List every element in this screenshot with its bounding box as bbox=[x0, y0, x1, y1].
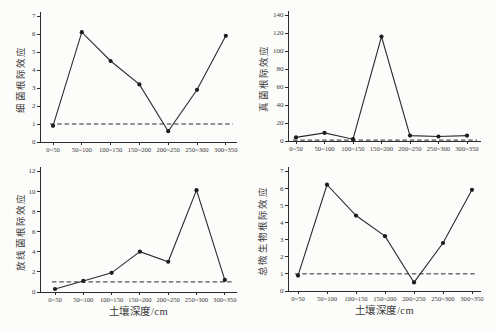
x-tick-label: 300~350 bbox=[214, 146, 238, 153]
x-tick-label: 0~50 bbox=[48, 296, 62, 303]
data-point-marker bbox=[322, 131, 326, 135]
y-tick-label: 6 bbox=[32, 30, 36, 38]
chart-panel-actinomycetes: 0246810120~5050~100100~150150~200200~250… bbox=[0, 166, 248, 331]
chart-panel-fungi: 0204060801001201400~5050~100100~150150~2… bbox=[248, 0, 496, 166]
data-series-line bbox=[55, 190, 225, 289]
data-point-marker bbox=[51, 124, 55, 128]
data-point-marker bbox=[224, 34, 228, 38]
y-tick-label: 4 bbox=[280, 219, 284, 227]
x-tick-label: 250~300 bbox=[185, 146, 209, 153]
y-tick-label: 0 bbox=[280, 137, 284, 145]
chart-actinomycete-rhizosphere-effect: 0246810120~5050~100100~150150~200200~250… bbox=[0, 166, 248, 331]
data-point-marker bbox=[137, 82, 141, 86]
y-axis-label: 细菌根际效应 bbox=[15, 45, 26, 112]
data-point-marker bbox=[383, 234, 387, 238]
x-tick-label: 250~300 bbox=[185, 296, 209, 303]
y-tick-label: 60 bbox=[277, 83, 285, 91]
axes bbox=[40, 167, 237, 292]
y-tick-label: 80 bbox=[277, 65, 285, 73]
data-point-marker bbox=[325, 183, 329, 187]
x-tick-label: 300~350 bbox=[455, 145, 479, 152]
y-axis-label: 放线菌根际效应 bbox=[15, 192, 26, 270]
y-tick-label: 120 bbox=[273, 29, 284, 37]
x-tick-label: 300~350 bbox=[213, 296, 237, 303]
x-tick-label: 200~250 bbox=[157, 146, 181, 153]
y-tick-label: 12 bbox=[29, 167, 37, 175]
y-tick-label: 4 bbox=[32, 66, 36, 74]
y-tick-label: 40 bbox=[277, 101, 285, 109]
y-tick-label: 7 bbox=[280, 167, 284, 175]
y-tick-label: 2 bbox=[280, 253, 284, 261]
x-tick-label: 150~200 bbox=[128, 296, 152, 303]
y-axis-label: 总微生物根际效应 bbox=[257, 186, 268, 276]
y-tick-label: 0 bbox=[32, 138, 36, 146]
y-tick-label: 1 bbox=[32, 120, 36, 128]
data-point-marker bbox=[109, 59, 113, 63]
data-point-marker bbox=[441, 241, 445, 245]
x-tick-label: 50~100 bbox=[73, 296, 94, 303]
x-tick-label: 100~150 bbox=[341, 145, 365, 152]
data-point-marker bbox=[53, 287, 57, 291]
chart-panel-total-microbes: 012345670~5050~100100~150150~200200~2502… bbox=[248, 166, 496, 331]
y-axis-label: 真菌根际效应 bbox=[258, 44, 269, 111]
axes bbox=[288, 11, 481, 141]
x-tick-label: 250~300 bbox=[427, 145, 451, 152]
y-tick-label: 4 bbox=[32, 248, 36, 256]
chart-bacterial-rhizosphere-effect: 012345670~5050~100100~150150~200200~2502… bbox=[0, 0, 248, 166]
x-tick-label: 50~100 bbox=[317, 295, 338, 302]
axes bbox=[288, 167, 481, 291]
y-tick-label: 0 bbox=[32, 288, 36, 296]
data-point-marker bbox=[351, 137, 355, 141]
y-tick-label: 2 bbox=[32, 268, 36, 276]
y-tick-label: 2 bbox=[32, 102, 36, 110]
data-point-marker bbox=[110, 271, 114, 275]
data-point-marker bbox=[81, 279, 85, 283]
x-tick-label: 200~250 bbox=[398, 145, 422, 152]
chart-panel-bacteria: 012345670~5050~100100~150150~200200~2502… bbox=[0, 0, 248, 166]
y-tick-label: 140 bbox=[273, 11, 284, 19]
axes bbox=[40, 12, 237, 142]
data-series-line bbox=[298, 185, 472, 283]
y-tick-label: 6 bbox=[32, 228, 36, 236]
x-tick-label: 0~50 bbox=[291, 295, 305, 302]
x-tick-label: 150~200 bbox=[128, 146, 152, 153]
y-tick-label: 6 bbox=[280, 185, 284, 193]
x-axis-label: 土壤深度/cm bbox=[109, 305, 168, 317]
chart-fungal-rhizosphere-effect: 0204060801001201400~5050~100100~150150~2… bbox=[248, 0, 496, 166]
x-tick-label: 150~200 bbox=[370, 145, 394, 152]
figure-rhizosphere-effects: 012345670~5050~100100~150150~200200~2502… bbox=[0, 0, 496, 331]
x-axis-label: 土壤深度/cm bbox=[355, 304, 414, 316]
x-tick-label: 300~350 bbox=[460, 295, 484, 302]
data-series-line bbox=[296, 37, 467, 140]
data-point-marker bbox=[408, 134, 412, 138]
x-tick-label: 200~250 bbox=[157, 296, 181, 303]
y-tick-label: 8 bbox=[32, 208, 36, 216]
y-tick-label: 100 bbox=[273, 47, 284, 55]
data-point-marker bbox=[223, 278, 227, 282]
data-point-marker bbox=[138, 250, 142, 254]
y-tick-label: 3 bbox=[32, 84, 36, 92]
data-point-marker bbox=[195, 88, 199, 92]
data-point-marker bbox=[470, 188, 474, 192]
data-point-marker bbox=[465, 134, 469, 138]
y-tick-label: 10 bbox=[29, 188, 37, 196]
x-tick-label: 100~150 bbox=[344, 295, 368, 302]
x-tick-label: 50~100 bbox=[314, 145, 335, 152]
y-tick-label: 7 bbox=[32, 12, 36, 20]
x-tick-label: 0~50 bbox=[46, 146, 60, 153]
y-tick-label: 5 bbox=[32, 48, 36, 56]
data-point-marker bbox=[412, 280, 416, 284]
x-tick-label: 150~200 bbox=[373, 295, 397, 302]
data-point-marker bbox=[194, 188, 198, 192]
data-point-marker bbox=[294, 135, 298, 139]
x-tick-label: 100~150 bbox=[99, 146, 123, 153]
x-tick-label: 50~100 bbox=[72, 146, 93, 153]
y-tick-label: 0 bbox=[280, 287, 284, 295]
data-point-marker bbox=[379, 35, 383, 39]
data-series-line bbox=[53, 32, 226, 131]
data-point-marker bbox=[436, 134, 440, 138]
chart-total-microbial-rhizosphere-effect: 012345670~5050~100100~150150~200200~2502… bbox=[248, 166, 496, 331]
y-tick-label: 20 bbox=[277, 119, 285, 127]
x-tick-label: 0~50 bbox=[289, 145, 303, 152]
x-tick-label: 250~300 bbox=[431, 295, 455, 302]
